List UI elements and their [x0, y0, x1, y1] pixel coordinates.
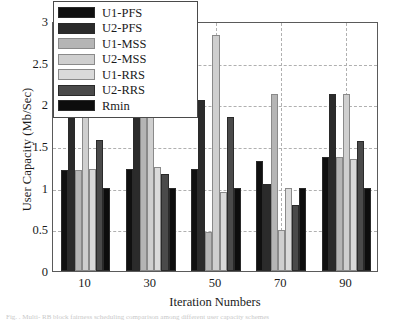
bar	[140, 111, 147, 271]
bar	[322, 157, 329, 271]
bar	[147, 114, 154, 271]
y-tick-label: 3	[4, 16, 48, 29]
legend-item: U1-PFS	[58, 5, 193, 21]
y-tick-label: 1	[4, 182, 48, 195]
legend-label: U2-MSS	[102, 53, 146, 66]
x-axis-label: Iteration Numbers	[52, 295, 378, 310]
bar	[343, 94, 350, 272]
y-tick-label: 2.5	[4, 57, 48, 70]
bar	[329, 94, 336, 272]
legend-label: U1-RRS	[102, 69, 145, 82]
legend-swatch	[58, 7, 95, 18]
bar	[299, 188, 306, 271]
legend-item: U2-MSS	[58, 52, 193, 68]
chart-legend: U1-PFSU2-PFSU1-MSSU2-MSSU1-RRSU2-RRSRmin	[53, 1, 198, 118]
x-tick-label: 50	[195, 276, 235, 291]
figure-caption: Fig. . Multi- RB block fairness scheduli…	[6, 313, 396, 322]
bar	[271, 94, 278, 271]
bar	[234, 188, 241, 271]
y-tick-label: 0.5	[4, 224, 48, 237]
legend-label: U2-PFS	[102, 22, 142, 35]
bar	[336, 157, 343, 271]
bar	[292, 205, 299, 271]
legend-swatch	[58, 23, 95, 34]
legend-item: U1-MSS	[58, 36, 193, 52]
legend-label: Rmin	[102, 100, 130, 113]
legend-item: Rmin	[58, 98, 193, 114]
bar	[61, 170, 68, 271]
bar	[227, 117, 234, 271]
bar	[126, 169, 133, 272]
bar	[205, 232, 212, 271]
bar	[212, 35, 219, 271]
bar	[75, 170, 82, 271]
y-tick-label: 0	[4, 266, 48, 279]
x-tick-label: 90	[325, 276, 365, 291]
x-tick-label: 10	[65, 276, 105, 291]
bar	[161, 174, 168, 272]
legend-swatch	[58, 38, 95, 49]
bar	[350, 159, 357, 272]
legend-item: U2-PFS	[58, 21, 193, 37]
bar	[133, 113, 140, 271]
legend-label: U1-PFS	[102, 7, 142, 20]
bar	[357, 141, 364, 271]
y-tick-label: 1.5	[4, 141, 48, 154]
bar	[263, 184, 270, 272]
legend-label: U2-RRS	[102, 84, 145, 97]
x-tick-label: 70	[260, 276, 300, 291]
legend-swatch	[58, 54, 95, 65]
bar	[256, 161, 263, 271]
bar	[89, 169, 96, 271]
bar	[103, 188, 110, 271]
legend-item: U2-RRS	[58, 83, 193, 99]
legend-swatch	[58, 85, 95, 96]
bar	[364, 188, 371, 271]
bar	[220, 192, 227, 271]
bar	[198, 100, 205, 271]
legend-item: U1-RRS	[58, 67, 193, 83]
legend-swatch	[58, 100, 95, 111]
chart-figure: User Capacity (Mb/Sec) 00.511.522.53 103…	[0, 0, 400, 323]
bar	[154, 167, 161, 271]
bar	[169, 188, 176, 271]
bar	[278, 230, 285, 271]
bar	[191, 169, 198, 271]
bar	[96, 140, 103, 271]
x-tick-label: 30	[130, 276, 170, 291]
legend-label: U1-MSS	[102, 38, 146, 51]
bar	[285, 188, 292, 271]
legend-swatch	[58, 69, 95, 80]
y-tick-label: 2	[4, 99, 48, 112]
